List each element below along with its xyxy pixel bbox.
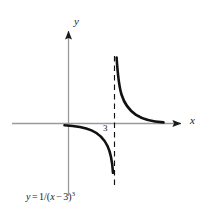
equation-exponent: 3 (72, 190, 75, 197)
equation-numerator: 1/( (39, 191, 50, 202)
equation-minus: − (55, 191, 64, 202)
function-graph-figure: y x 3 y=1/(x−3)3 (0, 0, 207, 222)
equation-equals: = (30, 191, 39, 202)
equation-constant: 3) (63, 191, 71, 202)
x-axis-label: x (190, 115, 195, 126)
y-axis-label: y (74, 16, 79, 27)
x-tick-label-3: 3 (103, 124, 108, 133)
plot-canvas (0, 0, 207, 222)
equation-variable: x (50, 191, 54, 202)
equation-caption: y=1/(x−3)3 (26, 192, 75, 202)
curve-right-branch (117, 58, 164, 123)
